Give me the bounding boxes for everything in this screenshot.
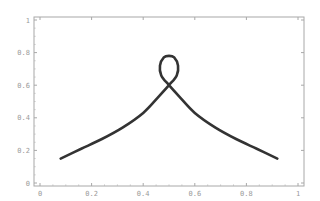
plot-border <box>34 17 304 186</box>
x-tick-label: 0.8 <box>240 190 253 198</box>
line-chart: 00.20.40.60.8100.20.40.60.81 <box>0 0 320 201</box>
y-tick-label: 0.4 <box>17 114 30 122</box>
y-tick-label: 0.6 <box>17 82 30 90</box>
y-tick-label: 0 <box>26 180 30 188</box>
data-series <box>61 56 278 159</box>
y-tick-label: 0.2 <box>17 147 30 155</box>
y-tick-label: 0.8 <box>17 49 30 57</box>
plot-frame <box>34 17 304 186</box>
x-tick-label: 0.6 <box>188 190 201 198</box>
x-tick-label: 0 <box>38 190 42 198</box>
x-tick-label: 0.2 <box>85 190 98 198</box>
axis-ticks: 00.20.40.60.8100.20.40.60.81 <box>17 17 304 199</box>
curve-line <box>61 56 278 159</box>
x-tick-label: 0.4 <box>137 190 150 198</box>
x-tick-label: 1 <box>296 190 300 198</box>
y-tick-label: 1 <box>26 17 30 25</box>
